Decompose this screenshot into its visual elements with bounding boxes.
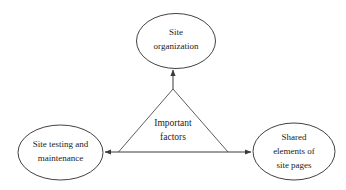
- diagram-canvas: Site organization Site testing and maint…: [0, 0, 346, 190]
- node-label-line-1: Site: [169, 27, 183, 37]
- relationship-diagram: Site organization Site testing and maint…: [0, 0, 346, 190]
- node-label-line-2: maintenance: [38, 153, 83, 163]
- node-shared-elements-of-site-pages[interactable]: Shared elements of site pages: [253, 123, 335, 180]
- node-label-line-1: Site testing and: [33, 139, 89, 149]
- node-label-line-3: site pages: [276, 160, 312, 170]
- center-label-line-1: Important: [154, 118, 192, 128]
- center-label-line-2: factors: [160, 132, 186, 142]
- node-site-testing-and-maintenance[interactable]: Site testing and maintenance: [18, 125, 103, 180]
- node-label-line-2: organization: [154, 41, 199, 51]
- node-label-line-1: Shared: [282, 132, 307, 142]
- center-label: Important factors: [154, 118, 192, 142]
- node-site-organization[interactable]: Site organization: [137, 14, 216, 69]
- node-label-line-2: elements of: [273, 146, 315, 156]
